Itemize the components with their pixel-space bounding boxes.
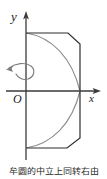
x-axis-label: x	[89, 93, 94, 104]
coordinate-figure	[0, 0, 107, 162]
origin-label: O	[13, 93, 22, 105]
y-axis-label: y	[11, 10, 17, 23]
caption-text: 牟圆的中立上同转右由	[9, 165, 99, 177]
rotation-arrow	[6, 64, 34, 80]
figure-panel: y x O	[0, 0, 107, 162]
caption-bar: 牟圆的中立上同转右由	[0, 162, 107, 179]
rotation-arrowhead	[6, 65, 14, 72]
